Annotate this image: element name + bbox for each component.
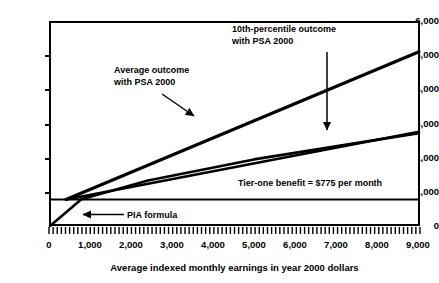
series-line-average-outcome: [66, 52, 419, 200]
average-outcome-arrow: [162, 94, 194, 116]
series-line-tenth-percentile-outcome: [66, 132, 419, 200]
chart-overlay: [0, 0, 439, 283]
x-axis-minor-ticks: [49, 227, 420, 234]
series-line-pia-formula: [50, 133, 419, 226]
chart-container: 6,000 5,000 4,000 3,000 2,000 1,000 0 0 …: [0, 0, 439, 283]
